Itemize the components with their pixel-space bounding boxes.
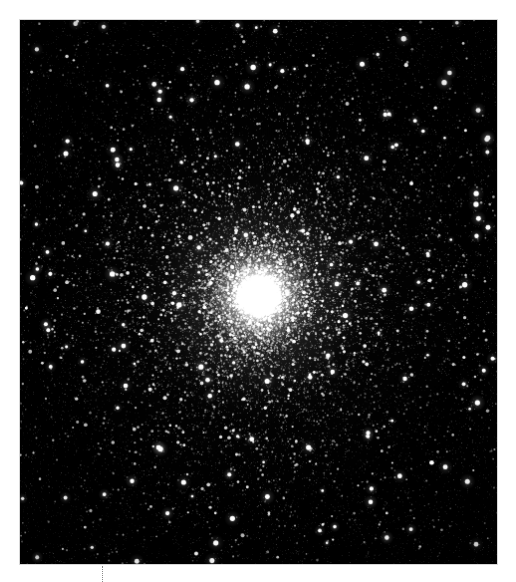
globular-cluster-image[interactable] bbox=[19, 19, 498, 565]
star-field-canvas bbox=[20, 20, 497, 564]
dotted-column-guide bbox=[102, 566, 103, 582]
page-root bbox=[0, 0, 516, 582]
